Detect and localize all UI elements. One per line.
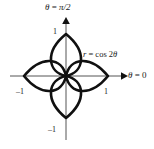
- vertical-axis-label: θ = π/2: [45, 3, 71, 12]
- tick-label-bottom: –1: [48, 126, 56, 134]
- equation-equals: =: [86, 49, 95, 59]
- vertical-axis-arrowhead: [62, 17, 70, 24]
- horizontal-axis-label: θ = 0: [128, 71, 147, 80]
- polar-rose-figure: θ = π/2 θ = 0 r = cos 2θ 1 1 –1 –1: [0, 0, 154, 149]
- vertical-axis-label-equals: =: [49, 2, 59, 12]
- horizontal-axis-label-value: 0: [142, 70, 147, 80]
- vertical-axis-label-value: π/2: [59, 2, 71, 12]
- horizontal-axis-label-equals: =: [132, 70, 142, 80]
- tick-label-right: 1: [104, 88, 108, 96]
- equation-theta: θ: [113, 49, 117, 59]
- equation-expression: cos 2: [95, 49, 113, 59]
- horizontal-axis-arrowhead: [121, 72, 128, 80]
- tick-label-top: 1: [53, 28, 57, 36]
- tick-label-left: –1: [16, 88, 24, 96]
- curve-equation-label: r = cos 2θ: [83, 50, 117, 59]
